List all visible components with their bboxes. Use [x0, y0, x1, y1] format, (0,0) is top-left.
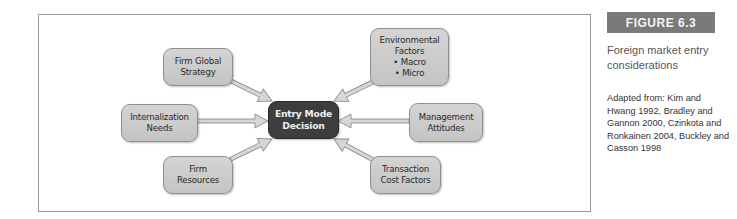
node-bullet: • Macro: [393, 57, 425, 68]
node-bullet: • Micro: [395, 68, 425, 79]
figure-caption: Foreign market entry considerations: [607, 43, 732, 73]
node-label: Strategy: [180, 67, 215, 78]
node-label: Management: [419, 112, 474, 123]
node-label: Internalization: [130, 112, 189, 123]
node-firm-global-strategy: Firm Global Strategy: [163, 48, 233, 86]
node-environmental-factors: Environmental Factors • Macro • Micro: [370, 28, 449, 86]
arrow-firm-global-strategy: [228, 75, 275, 108]
node-label: Cost Factors: [380, 175, 430, 186]
node-entry-mode-decision: Entry Mode Decision: [268, 101, 339, 139]
node-management-attitudes: Management Attitudes: [409, 103, 483, 142]
node-label: Factors: [395, 46, 424, 57]
node-label: Resources: [177, 175, 219, 186]
node-transaction-cost-factors: Transaction Cost Factors: [370, 156, 441, 194]
center-label: Decision: [282, 120, 324, 132]
node-label: Needs: [147, 123, 173, 134]
figure-number-label: FIGURE 6.3: [607, 12, 715, 33]
arrow-firm-resources: [228, 133, 275, 166]
node-firm-resources: Firm Resources: [163, 156, 233, 194]
node-label: Attitudes: [427, 123, 464, 134]
node-label: Firm Global: [175, 56, 221, 67]
center-label: Entry Mode: [275, 108, 332, 120]
arrow-internalization-needs: [197, 114, 268, 128]
node-internalization-needs: Internalization Needs: [121, 104, 198, 142]
node-label: Firm: [189, 164, 207, 175]
node-label: Environmental: [380, 35, 440, 46]
node-label: Transaction: [382, 164, 429, 175]
figure-source: Adapted from: Kim and Hwang 1992, Bradle…: [607, 92, 732, 155]
arrow-management-attitudes: [338, 114, 409, 128]
